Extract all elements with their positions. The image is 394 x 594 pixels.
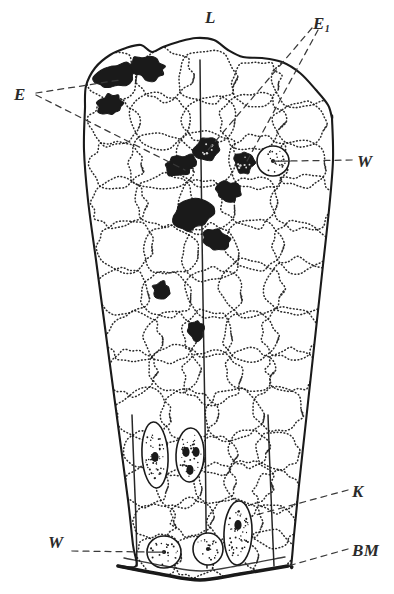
round-cell-w-lower-b: [193, 533, 223, 565]
label-w-lower: W: [48, 533, 64, 553]
label-bm: BM: [352, 541, 379, 561]
label-e1-subscript: 1: [325, 23, 330, 34]
label-l: L: [205, 8, 216, 28]
label-k: K: [352, 482, 364, 502]
histology-figure: [0, 0, 394, 594]
label-e1: E1: [313, 14, 330, 34]
label-e: E: [14, 85, 26, 105]
label-bm-text: BM: [352, 541, 379, 560]
label-e-text: E: [14, 85, 26, 104]
label-w-lower-text: W: [48, 533, 64, 552]
label-e1-text: E: [313, 14, 325, 33]
label-w-upper: W: [357, 152, 373, 172]
label-k-text: K: [352, 482, 364, 501]
label-w-upper-text: W: [357, 152, 373, 171]
label-l-text: L: [205, 8, 216, 27]
